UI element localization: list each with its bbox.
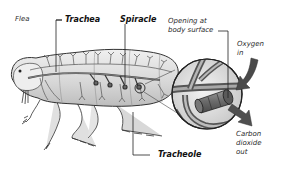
flea-legs (22, 98, 162, 150)
label-spiracle: Spiracle (120, 15, 156, 24)
label-opening-at-body-surface: Opening at body surface (168, 17, 213, 35)
label-tracheole: Tracheole (158, 150, 201, 159)
label-flea: Flea (15, 15, 30, 24)
oxygen-in-arrow (236, 58, 258, 90)
label-trachea: Trachea (65, 15, 100, 24)
label-oxygen-in: Oxygen in (237, 40, 264, 58)
flea-respiration-diagram: Flea Trachea Spiracle Opening at body su… (0, 0, 281, 170)
magnified-spiracle-view (170, 55, 245, 132)
flea-eye (19, 70, 22, 73)
label-carbon-dioxide-out: Carbon dioxide out (236, 130, 262, 157)
